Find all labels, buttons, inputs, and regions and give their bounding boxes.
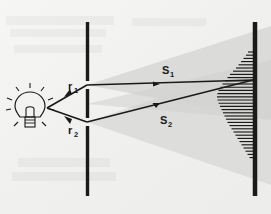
ray-r2-label: r <box>68 124 73 136</box>
ray-r1-label: r <box>68 80 73 92</box>
ray-r1-subscript: 1 <box>74 86 78 95</box>
ray-s1-label: S <box>162 64 169 76</box>
ray-r2-subscript: 2 <box>74 130 78 139</box>
ray-s2-label: S <box>160 114 167 126</box>
diagram-canvas: r 1 r 2 S 1 S 2 <box>0 0 271 214</box>
double-slit-diagram: r 1 r 2 S 1 S 2 <box>0 0 271 214</box>
ray-s1-subscript: 1 <box>170 70 174 79</box>
ray-s2-subscript: 2 <box>168 120 172 129</box>
